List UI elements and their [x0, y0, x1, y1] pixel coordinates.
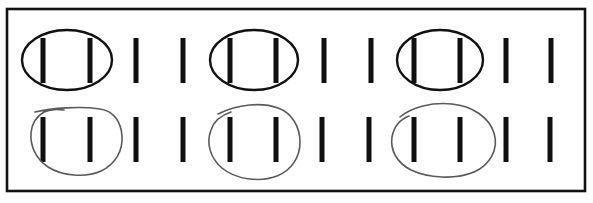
tally-mark: [504, 38, 509, 83]
tally-mark: [322, 38, 327, 83]
tally-mark: [412, 117, 417, 162]
worksheet-drawing: [0, 0, 593, 203]
tally-mark: [369, 38, 374, 83]
tally-mark: [228, 117, 233, 162]
tally-mark: [228, 38, 233, 83]
tally-mark: [458, 38, 463, 83]
group-ellipse: [210, 30, 298, 90]
bottom-row: [31, 104, 553, 180]
tally-mark: [412, 38, 417, 83]
tally-mark: [320, 117, 325, 162]
tally-mark: [181, 117, 186, 162]
tally-mark: [274, 117, 279, 162]
group-ellipse: [397, 30, 483, 90]
tally-mark: [88, 117, 93, 162]
tally-mark: [41, 38, 46, 83]
group-ellipse: [22, 30, 112, 90]
group-loop: [209, 105, 300, 180]
tally-mark: [134, 117, 139, 162]
group-loop: [392, 104, 496, 178]
tally-mark: [458, 117, 463, 162]
tally-mark: [88, 38, 93, 83]
worksheet-canvas: [0, 0, 593, 203]
tally-mark: [41, 117, 46, 162]
tally-mark: [181, 38, 186, 83]
tally-mark: [367, 117, 372, 162]
top-row: [22, 30, 554, 90]
tally-mark: [548, 117, 553, 162]
tally-mark: [134, 38, 139, 83]
tally-mark: [549, 38, 554, 83]
tally-mark: [274, 38, 279, 83]
tally-mark: [504, 117, 509, 162]
